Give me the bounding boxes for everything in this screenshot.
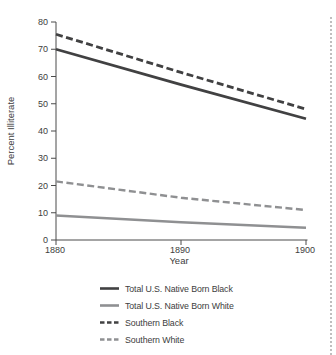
x-tick-label: 1890 <box>170 245 190 255</box>
legend-item-southern-white: Southern White <box>100 331 234 348</box>
legend-item-total-us-white: Total U.S. Native Born White <box>100 297 234 314</box>
x-tick-label: 1900 <box>295 245 315 255</box>
y-tick-label: 30 <box>38 153 48 163</box>
solid-gray-line-swatch-icon <box>100 303 119 308</box>
solid-dark-line-swatch-icon <box>100 286 119 291</box>
dashed-gray-line-swatch-icon <box>100 337 119 342</box>
series-line-southern-white <box>56 181 306 210</box>
dashed-dark-line-swatch-icon <box>100 320 119 325</box>
chart-series <box>56 34 306 227</box>
line-chart: 01020304050607080188018901900 Percent Il… <box>0 0 336 272</box>
legend-label: Southern White <box>125 335 184 345</box>
axis-lines-and-ticks <box>51 22 308 245</box>
axes <box>51 22 308 245</box>
series-line-southern-black <box>56 34 306 109</box>
y-tick-label: 50 <box>38 99 48 109</box>
series-line-total-u-s-native-born-white <box>56 215 306 227</box>
x-axis-title: Year <box>169 255 188 266</box>
illiteracy-chart-figure: 01020304050607080188018901900 Percent Il… <box>0 0 336 355</box>
legend: Total U.S. Native Born Black Total U.S. … <box>100 280 234 348</box>
series-line-total-u-s-native-born-black <box>56 49 306 118</box>
y-tick-label: 40 <box>38 126 48 136</box>
y-tick-label: 0 <box>43 235 48 245</box>
y-axis-title: Percent Illiterate <box>5 97 16 166</box>
page-edge-dotted-line <box>330 17 332 355</box>
legend-item-southern-black: Southern Black <box>100 314 234 331</box>
tick-labels: 01020304050607080188018901900 <box>38 17 315 255</box>
legend-item-total-us-black: Total U.S. Native Born Black <box>100 280 234 297</box>
legend-label: Total U.S. Native Born White <box>125 301 234 311</box>
x-tick-label: 1880 <box>45 245 65 255</box>
y-tick-label: 10 <box>38 208 48 218</box>
y-tick-label: 60 <box>38 72 48 82</box>
y-tick-label: 80 <box>38 17 48 27</box>
y-tick-label: 70 <box>38 44 48 54</box>
legend-label: Southern Black <box>125 318 183 328</box>
legend-label: Total U.S. Native Born Black <box>125 284 233 294</box>
y-tick-label: 20 <box>38 181 48 191</box>
